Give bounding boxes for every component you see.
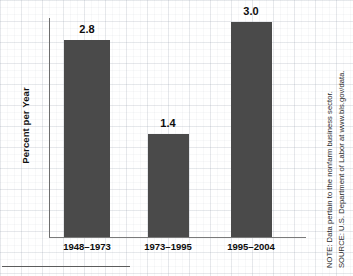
bar-1 <box>64 40 110 237</box>
bar-chart-figure: Percent per Year 2.8 1948–1973 1.4 1973–… <box>0 0 353 276</box>
source-annotation: SOURCE: U.S. Department of Labor at www.… <box>337 70 346 268</box>
y-axis-line <box>49 18 50 238</box>
x-tick-label-1: 1948–1973 <box>47 241 127 252</box>
bar-3 <box>231 22 272 237</box>
bar-3-value-label: 3.0 <box>221 5 281 17</box>
y-axis-title: Percent per Year <box>20 66 31 186</box>
x-tick-label-3: 1995–2004 <box>211 241 291 252</box>
x-tick-label-2: 1973–1995 <box>128 241 208 252</box>
bar-2 <box>148 134 189 237</box>
bar-2-value-label: 1.4 <box>138 117 198 129</box>
plot-area: Percent per Year 2.8 1948–1973 1.4 1973–… <box>0 0 353 276</box>
x-axis-line <box>49 237 306 238</box>
note-annotation: NOTE: Data pertain to the nonfarm busine… <box>325 91 334 268</box>
bar-1-value-label: 2.8 <box>57 23 117 35</box>
bottom-divider-rule <box>2 266 130 267</box>
